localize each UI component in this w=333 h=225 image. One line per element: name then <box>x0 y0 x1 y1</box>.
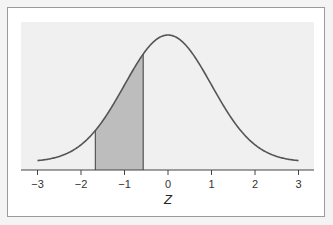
x-tick-label: 3 <box>295 178 301 190</box>
x-tick-label: −3 <box>31 178 44 190</box>
plot-area <box>21 22 314 170</box>
x-tick-label: 1 <box>208 178 214 190</box>
x-tick-label: −1 <box>118 178 131 190</box>
x-tick-label: 2 <box>252 178 258 190</box>
normal-curve-chart: −3−2−10123Z <box>0 0 333 225</box>
x-tick-label: −2 <box>75 178 88 190</box>
x-tick-label: 0 <box>165 178 171 190</box>
x-axis-title: Z <box>163 192 173 207</box>
